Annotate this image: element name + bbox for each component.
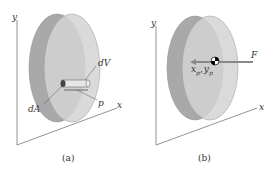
caption-a: (a)	[62, 153, 74, 163]
panel-a: y x dV dA p (a)	[11, 12, 122, 163]
y-axis-label-b: y	[150, 18, 157, 28]
yp-subscript: p	[209, 69, 213, 77]
x-axis-label-a: x	[117, 100, 122, 110]
y-axis-label-a: y	[11, 12, 18, 22]
dV-label: dV	[98, 58, 112, 68]
cylinder-end	[86, 80, 90, 87]
caption-b: (b)	[198, 153, 211, 163]
volume-element-cylinder	[62, 80, 88, 87]
p-label: p	[98, 98, 104, 108]
center-of-pressure-icon	[211, 57, 219, 65]
front-disk-a	[44, 14, 100, 122]
dA-label: dA	[28, 104, 41, 114]
area-element-face	[61, 80, 66, 87]
panel-b: y x F xp,yp (b)	[150, 16, 264, 163]
x-axis-label-b: x	[259, 102, 264, 112]
comma: ,	[200, 64, 203, 74]
figure: y x dV dA p (a) y x F xp,yp	[0, 0, 277, 175]
force-label: F	[250, 50, 258, 60]
